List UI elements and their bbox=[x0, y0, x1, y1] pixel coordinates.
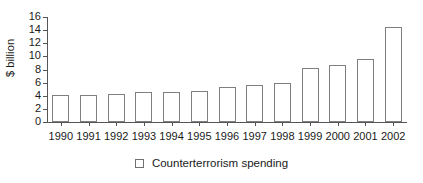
x-axis-tick-mark bbox=[338, 122, 339, 126]
y-axis-tick-label: 12 bbox=[29, 36, 41, 48]
bar-chart: $ billion 0246810121416 1990199119921993… bbox=[0, 0, 423, 183]
x-axis-tick-mark bbox=[89, 122, 90, 126]
y-axis-tick: 8 bbox=[47, 70, 48, 71]
y-axis-tick: 10 bbox=[47, 56, 48, 57]
y-axis-tick-label: 0 bbox=[35, 115, 41, 127]
y-axis-tick-label: 8 bbox=[35, 63, 41, 75]
plot-area: 0246810121416 19901991199219931994199519… bbox=[47, 17, 407, 122]
y-axis-tick-mark bbox=[43, 30, 47, 31]
y-axis-tick-mark bbox=[43, 17, 47, 18]
bar bbox=[135, 92, 152, 122]
bar bbox=[108, 94, 125, 122]
x-axis-tick-mark bbox=[116, 122, 117, 126]
y-axis-tick: 14 bbox=[47, 30, 48, 31]
bar bbox=[80, 95, 97, 122]
y-axis-tick-label: 4 bbox=[35, 89, 41, 101]
chart-legend: Counterterrorism spending bbox=[0, 157, 423, 169]
x-axis-tick-mark bbox=[61, 122, 62, 126]
x-axis-tick-mark bbox=[282, 122, 283, 126]
x-axis-tick-mark bbox=[393, 122, 394, 126]
legend-item-label: Counterterrorism spending bbox=[152, 157, 288, 169]
y-axis-tick-mark bbox=[43, 70, 47, 71]
y-axis-tick: 6 bbox=[47, 83, 48, 84]
y-axis-tick-label: 10 bbox=[29, 49, 41, 61]
x-axis-tick-mark bbox=[310, 122, 311, 126]
y-axis-tick-label: 14 bbox=[29, 23, 41, 35]
y-axis-tick-mark bbox=[43, 122, 47, 123]
y-axis-tick-label: 16 bbox=[29, 10, 41, 22]
y-axis-tick-mark bbox=[43, 56, 47, 57]
y-axis-tick: 16 bbox=[47, 17, 48, 18]
x-axis-tick-mark bbox=[172, 122, 173, 126]
y-axis-title: $ billion bbox=[4, 28, 16, 88]
y-axis-tick: 2 bbox=[47, 109, 48, 110]
bar bbox=[357, 59, 374, 122]
x-axis-tick-mark bbox=[199, 122, 200, 126]
x-axis-tick-label: 2002 bbox=[373, 130, 413, 142]
y-axis-tick-mark bbox=[43, 43, 47, 44]
bar bbox=[191, 91, 208, 122]
y-axis-tick-mark bbox=[43, 109, 47, 110]
bar bbox=[329, 65, 346, 122]
x-axis-tick-mark bbox=[365, 122, 366, 126]
bar bbox=[385, 27, 402, 122]
bar bbox=[246, 85, 263, 122]
x-axis-tick-mark bbox=[144, 122, 145, 126]
bar bbox=[302, 68, 319, 122]
y-axis-tick: 0 bbox=[47, 122, 48, 123]
y-axis-tick-mark bbox=[43, 83, 47, 84]
bar bbox=[274, 83, 291, 122]
y-axis-tick-label: 2 bbox=[35, 102, 41, 114]
bar bbox=[163, 92, 180, 122]
x-axis-tick-mark bbox=[255, 122, 256, 126]
bar bbox=[219, 87, 236, 122]
x-axis-tick-mark bbox=[227, 122, 228, 126]
y-axis-tick-mark bbox=[43, 96, 47, 97]
y-axis-tick-label: 6 bbox=[35, 76, 41, 88]
y-axis-tick: 12 bbox=[47, 43, 48, 44]
bar bbox=[52, 95, 69, 122]
y-axis-tick: 4 bbox=[47, 96, 48, 97]
legend-swatch-icon bbox=[135, 159, 144, 168]
